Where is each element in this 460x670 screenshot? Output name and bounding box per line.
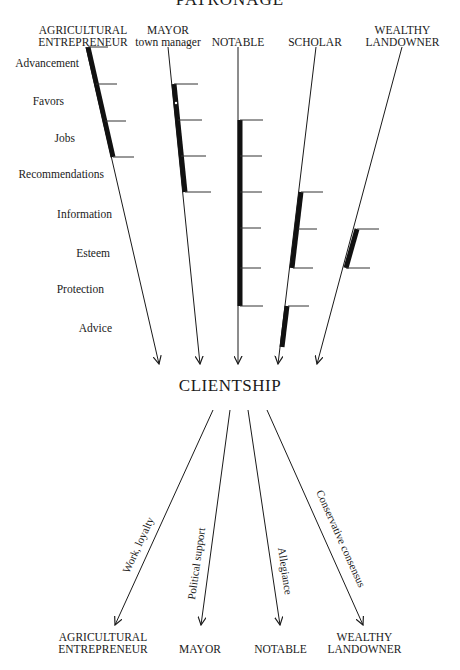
return-line-work-loyalty: Work, loyalty [115,410,213,625]
patron-line-agricultural-entrepreneur [86,47,159,364]
provision-bar [282,306,287,347]
patron-line-mayor [168,47,211,364]
client-label-wealthy-landowner: WEALTHY LANDOWNER [327,631,402,655]
client-label-line1: AGRICULTURAL [48,631,158,643]
patron-line-wealthy-landowner [317,47,402,364]
patron-line-scholar [278,47,323,364]
client-label-line2: LANDOWNER [327,643,402,655]
return-line-allegiance: Allegiance [248,410,295,625]
client-label-notable: NOTABLE [248,631,313,655]
client-label-line2: MAYOR [170,643,230,655]
clientship-label: CLIENTSHIP [0,376,460,396]
client-label-line1 [170,631,230,643]
provision-bar [88,47,113,157]
return-label: Political support [185,527,207,600]
mark-dot [175,102,177,104]
return-line-political-support: Political support [185,410,230,625]
return-line-conservative-consensus: Conservative consensus [267,410,368,625]
return-label: Conservative consensus [314,488,368,589]
patron-line-notable [238,47,263,364]
client-label-mayor: MAYOR [170,631,230,655]
client-label-line2: ENTREPRENEUR [48,643,158,655]
client-label-line1: WEALTHY [327,631,402,643]
client-label-line2: NOTABLE [248,643,313,655]
provision-bar [174,84,185,192]
return-label: Allegiance [276,547,295,596]
patronage-diagram: Work, loyalty Political support Allegian… [0,0,460,670]
client-label-line1 [248,631,313,643]
return-label: Work, loyalty [120,515,156,575]
provision-bar [292,192,301,268]
client-label-agricultural-entrepreneur: AGRICULTURAL ENTREPRENEUR [48,631,158,655]
